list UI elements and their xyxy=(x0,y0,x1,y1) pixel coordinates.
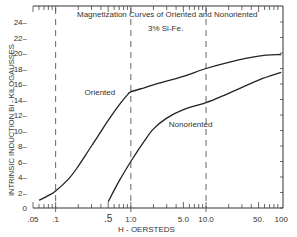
y-tick-label: 6– xyxy=(18,158,27,167)
x-tick-label: 10.0 xyxy=(198,215,214,224)
labels: 02–4–6–8–10–12–14–16–18–20–22–24–.05.1.5… xyxy=(14,18,289,224)
chart-title: Magnetization Curves of Oriented and Non… xyxy=(77,10,258,19)
y-tick-label: 2– xyxy=(18,189,27,198)
magnetization-chart: 02–4–6–8–10–12–14–16–18–20–22–24–.05.1.5… xyxy=(0,0,297,237)
y-tick-label: 22– xyxy=(14,34,28,43)
x-tick-label: 100 xyxy=(275,215,289,224)
y-tick-label: 0 xyxy=(23,204,28,213)
x-tick-label: 50. xyxy=(253,215,264,224)
y-tick-label: 24– xyxy=(14,18,28,27)
x-tick-label: 5.0 xyxy=(178,215,190,224)
chart-subtitle: 3% Si-Fe. xyxy=(148,24,183,33)
x-tick-label: .5 xyxy=(104,213,113,224)
curve-nonoriented xyxy=(108,72,281,201)
y-tick-label: 4– xyxy=(18,173,27,182)
curve-oriented xyxy=(39,55,281,201)
x-tick-label: .05 xyxy=(27,215,39,224)
annotation-oriented: Oriented xyxy=(85,88,116,97)
data-curves xyxy=(39,55,281,202)
annotation-nonoriented: Nonoriented xyxy=(169,120,213,129)
x-tick-label: 1.0 xyxy=(125,215,137,224)
x-tick-label: .1 xyxy=(52,215,59,224)
y-axis-label: INTRINSIC INDUCTION Bi - KILOGAUSSES xyxy=(7,44,16,196)
x-axis-label: H - OERSTEDS xyxy=(118,225,175,234)
dashed-reference-lines xyxy=(56,8,206,218)
y-tick-label: 8– xyxy=(18,142,27,151)
